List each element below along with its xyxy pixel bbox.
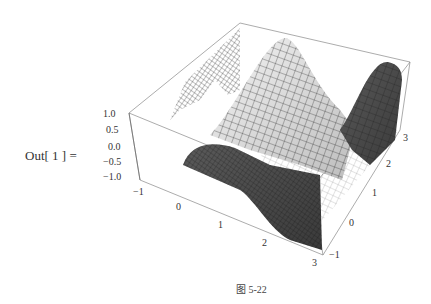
back-left-ridge — [170, 28, 240, 120]
svg-text:3: 3 — [312, 257, 317, 268]
svg-text:−1: −1 — [329, 249, 340, 260]
svg-text:0: 0 — [176, 201, 181, 212]
svg-text:0: 0 — [349, 217, 354, 228]
svg-text:1: 1 — [372, 187, 377, 198]
surface-plot-3d: 1.0 0.5 0.0 −0.5 −1.0 −1 0 1 2 3 −1 0 1 … — [0, 0, 431, 304]
svg-text:2: 2 — [262, 237, 267, 248]
svg-text:0.0: 0.0 — [108, 141, 121, 152]
z-axis: 1.0 0.5 0.0 −0.5 −1.0 — [103, 108, 140, 182]
figure-caption: 图 5-22 — [236, 281, 267, 296]
svg-text:1: 1 — [218, 219, 223, 230]
svg-text:0.5: 0.5 — [106, 124, 119, 135]
svg-text:1.0: 1.0 — [103, 108, 116, 119]
svg-text:−0.5: −0.5 — [103, 156, 121, 167]
svg-text:3: 3 — [403, 132, 408, 143]
svg-text:2: 2 — [386, 158, 391, 169]
svg-text:−1: −1 — [133, 186, 144, 197]
svg-text:−1.0: −1.0 — [103, 171, 121, 182]
